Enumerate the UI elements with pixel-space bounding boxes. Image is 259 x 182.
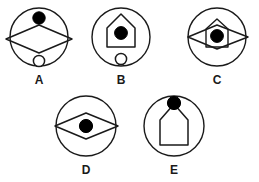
- figure-c-label: C: [180, 74, 254, 86]
- figure-b-label: B: [86, 74, 156, 86]
- figure-d-label: D: [48, 164, 124, 176]
- filled-dot: [33, 12, 45, 24]
- filled-dot: [79, 119, 92, 132]
- figure-a-label: A: [4, 74, 74, 86]
- figure-d-graphic: [48, 94, 124, 162]
- puzzle-board: A B C D: [0, 0, 259, 182]
- figure-d[interactable]: D: [48, 94, 124, 176]
- hollow-circle: [33, 55, 44, 66]
- figure-e-label: E: [136, 164, 212, 176]
- figure-a-graphic: [4, 6, 74, 72]
- figure-b[interactable]: B: [86, 6, 156, 84]
- figure-c-graphic: [180, 6, 254, 72]
- figure-e-graphic: [136, 94, 212, 162]
- filled-dot: [167, 96, 180, 109]
- figure-a[interactable]: A: [4, 6, 74, 84]
- filled-dot: [211, 30, 224, 43]
- filled-dot: [115, 27, 128, 40]
- figure-e[interactable]: E: [136, 94, 212, 176]
- figure-c[interactable]: C: [180, 6, 254, 84]
- hollow-circle: [115, 53, 126, 64]
- figure-b-graphic: [86, 6, 156, 72]
